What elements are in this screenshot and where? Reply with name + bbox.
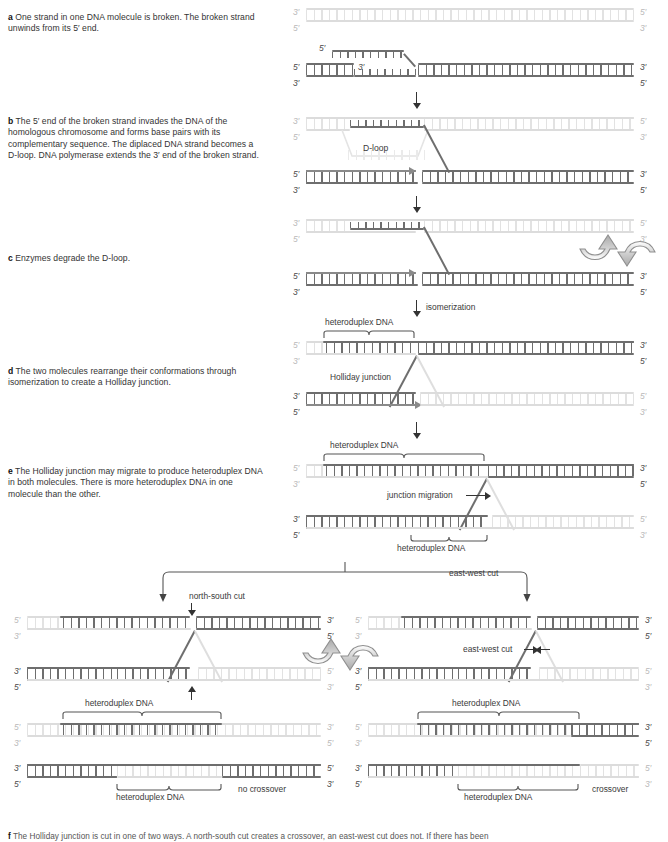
dna-duplex-dark-right-d bbox=[418, 341, 634, 355]
dna-product-f-right-1b bbox=[571, 723, 639, 737]
end-label-5prime: 5′ bbox=[640, 117, 646, 126]
dna-base-pairs bbox=[418, 343, 634, 354]
caption-c: c Enzymes degrade the D-loop. bbox=[8, 253, 263, 264]
heteroduplex-brace-e-top bbox=[323, 453, 485, 460]
brace-shape bbox=[62, 711, 222, 719]
rotation-arrow-icon-f bbox=[296, 620, 358, 706]
end-label-3prime: 3′ bbox=[640, 63, 646, 72]
dna-base-pairs bbox=[306, 394, 416, 405]
end-label-5prime: 5′ bbox=[293, 408, 299, 417]
dna-backbone-bottom bbox=[306, 20, 634, 22]
dna-duplex-pale-lower-right-e bbox=[492, 515, 634, 529]
end-label-3prime: 3′ bbox=[645, 616, 651, 625]
end-label-3prime: 3′ bbox=[327, 780, 333, 789]
dna-base-pairs bbox=[27, 669, 117, 680]
end-label-3prime: 3′ bbox=[645, 683, 651, 692]
dna-backbone-pale-f-right bbox=[368, 628, 532, 630]
dna-backbone bbox=[350, 228, 424, 230]
dna-backbone-pale-bottom-c bbox=[306, 231, 416, 233]
dna-invaded-strand-c bbox=[350, 222, 424, 230]
d-loop-label: D-loop bbox=[363, 144, 388, 153]
dna-backbone-bottom bbox=[27, 735, 321, 737]
heteroduplex-bases-f-left-top bbox=[63, 618, 189, 628]
dna-duplex-dark-right-e bbox=[488, 464, 634, 478]
brace-shape bbox=[323, 453, 485, 461]
dna-duplex-pale-f-right-lower-right bbox=[539, 667, 639, 681]
end-label-3prime: 3′ bbox=[645, 780, 651, 789]
end-label-3prime: 3′ bbox=[293, 79, 299, 88]
step-arrow-d-to-e bbox=[416, 422, 417, 434]
dna-duplex-pale-lower-d bbox=[420, 392, 634, 406]
east-west-cut-label-inline: east-west cut bbox=[463, 645, 512, 653]
dna-base-pairs bbox=[306, 10, 634, 21]
dna-base-pairs bbox=[368, 669, 458, 680]
brace-shape bbox=[410, 534, 488, 542]
dna-strand-crossing-c bbox=[423, 226, 450, 274]
heteroduplex-bases-f-right-top bbox=[404, 618, 530, 628]
dna-duplex-broken-left bbox=[306, 63, 354, 77]
dna-template-strand bbox=[354, 69, 416, 77]
dna-base-pairs bbox=[571, 725, 639, 736]
end-label-5prime: 5′ bbox=[355, 723, 361, 732]
isomerization-rotation-icon-f bbox=[296, 620, 358, 702]
rotation-arrow-icon bbox=[573, 216, 635, 302]
end-label-5prime: 5′ bbox=[293, 464, 299, 473]
step-arrow-c-to-d bbox=[416, 300, 417, 312]
heteroduplex-label-f-left-1: heteroduplex DNA bbox=[85, 699, 153, 707]
dna-duplex-homologous-pale bbox=[306, 8, 634, 22]
crossover-label: crossover bbox=[592, 785, 628, 793]
caption-d-text: The two molecules rearrange their confor… bbox=[8, 366, 236, 387]
dna-base-pairs bbox=[492, 517, 634, 528]
isomerization-label: isomerization bbox=[426, 303, 475, 311]
end-label-5prime: 5′ bbox=[645, 739, 651, 748]
end-label-3prime: 3′ bbox=[14, 739, 20, 748]
heteroduplex-label-f-right-1: heteroduplex DNA bbox=[452, 699, 520, 707]
east-west-cut-label-top: east-west cut bbox=[449, 569, 498, 577]
caption-a: a One strand in one DNA molecule is brok… bbox=[8, 12, 263, 35]
end-label-5prime: 5′ bbox=[640, 357, 646, 366]
dna-bases bbox=[350, 120, 424, 126]
dna-bases bbox=[306, 278, 418, 284]
end-label-3prime: 3′ bbox=[293, 186, 299, 195]
caption-f-text: The Holliday junction is cut in one of t… bbox=[13, 832, 489, 841]
heteroduplex-bases-f-left-product2 bbox=[117, 766, 222, 776]
dna-backbone-bottom bbox=[368, 735, 571, 737]
end-label-5prime: 5′ bbox=[14, 616, 20, 625]
dna-backbone-bottom bbox=[424, 129, 634, 131]
dna-product-f-left-2c bbox=[222, 764, 321, 778]
dna-backbone-bottom bbox=[418, 353, 634, 355]
end-label-3prime: 3′ bbox=[640, 133, 646, 142]
step-arrow-a-to-b bbox=[416, 92, 417, 104]
north-south-cut-arrow-bottom bbox=[191, 691, 192, 700]
heteroduplex-label-f-right-2: heteroduplex DNA bbox=[464, 793, 532, 801]
dna-base-pairs bbox=[580, 766, 639, 777]
dna-backbone-bottom bbox=[571, 735, 639, 737]
dna-duplex-homologous-right bbox=[424, 117, 634, 131]
dna-backbone-bottom-f-left-2b bbox=[117, 776, 222, 778]
heteroduplex-bases-f-left-product1 bbox=[63, 725, 221, 735]
end-label-3prime: 3′ bbox=[355, 632, 361, 641]
dna-backbone bbox=[306, 182, 418, 184]
brace-shape bbox=[323, 330, 415, 338]
east-west-cut-arrow-left bbox=[540, 649, 550, 650]
end-label-3prime: 3′ bbox=[293, 8, 299, 17]
end-label-3prime: 3′ bbox=[14, 667, 20, 676]
end-label-3prime: 3′ bbox=[640, 272, 646, 281]
end-label-5prime: 5′ bbox=[293, 272, 299, 281]
dna-backbone-bottom-f-left-2a bbox=[27, 776, 117, 778]
dna-backbone-bottom bbox=[418, 75, 634, 77]
end-label-3prime: 3′ bbox=[640, 408, 646, 417]
no-crossover-label: no crossover bbox=[238, 785, 286, 793]
dna-unwound-strand bbox=[332, 50, 404, 58]
heteroduplex-bases-e-top bbox=[326, 466, 482, 476]
end-label-5prime: 5′ bbox=[293, 63, 299, 72]
caption-d-letter: d bbox=[8, 366, 13, 376]
end-label-5prime: 5′ bbox=[640, 392, 646, 401]
heteroduplex-bases-f-right-product2 bbox=[458, 766, 578, 776]
end-label-3prime: 3′ bbox=[293, 392, 299, 401]
end-label-5prime: 5′ bbox=[293, 24, 299, 33]
isomerization-rotation-icon bbox=[573, 216, 635, 298]
dna-template-strand-c bbox=[306, 278, 418, 286]
caption-f-letter: f bbox=[8, 832, 11, 841]
dna-base-pairs bbox=[27, 618, 63, 629]
